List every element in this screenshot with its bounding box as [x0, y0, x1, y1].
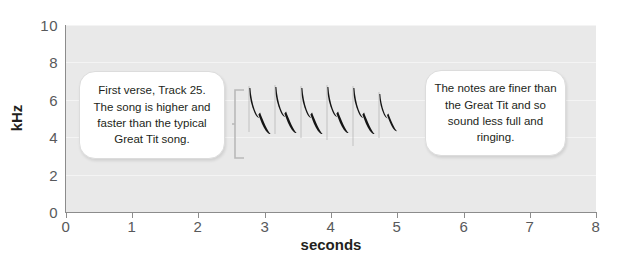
- x-tick-label-8: 8: [581, 218, 611, 235]
- spectrogram-trace: [243, 84, 403, 170]
- y-tick-label-4: 4: [28, 129, 58, 146]
- callout-right-text: The notes are finer than the Great Tit a…: [433, 80, 558, 145]
- callout-left-text: First verse, Track 25. The song is highe…: [87, 82, 217, 147]
- x-tick-label-1: 1: [117, 218, 147, 235]
- x-axis-title: seconds: [301, 236, 362, 253]
- gridline-2: [66, 175, 596, 176]
- y-tick-label-8: 8: [28, 54, 58, 71]
- x-tick-label-7: 7: [515, 218, 545, 235]
- gridline-8: [66, 62, 596, 63]
- x-tick-label-0: 0: [51, 218, 81, 235]
- y-tick-label-10: 10: [28, 17, 58, 34]
- y-axis-title: kHz: [8, 105, 25, 132]
- y-tick-label-2: 2: [28, 167, 58, 184]
- callout-right: The notes are finer than the Great Tit a…: [425, 70, 566, 156]
- y-tick-label-6: 6: [28, 92, 58, 109]
- callout-left: First verse, Track 25. The song is highe…: [79, 71, 225, 159]
- gridline-10: [66, 25, 596, 26]
- x-tick-label-3: 3: [250, 218, 280, 235]
- y-axis-line: [65, 25, 66, 213]
- x-tick-label-5: 5: [382, 218, 412, 235]
- x-tick-label-4: 4: [316, 218, 346, 235]
- sonogram-figure: 10 8 6 4 2 0 0 1 2 3 4 5 6 7 8 kHz secon…: [0, 0, 630, 272]
- x-tick-label-6: 6: [449, 218, 479, 235]
- x-tick-label-2: 2: [183, 218, 213, 235]
